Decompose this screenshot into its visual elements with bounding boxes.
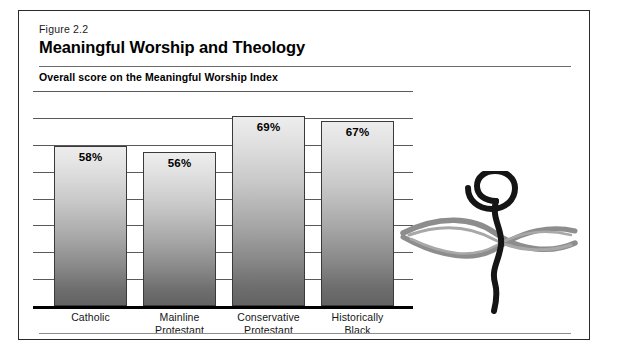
chart-bar: 56% bbox=[143, 152, 216, 306]
spiral-brush-ornament-icon bbox=[399, 171, 579, 316]
chart-bar: 67% bbox=[321, 121, 394, 306]
chart-bar: 69% bbox=[232, 116, 305, 306]
chart-bar-group: 69% bbox=[232, 116, 305, 306]
chart-subtitle: Overall score on the Meaningful Worship … bbox=[39, 71, 278, 83]
chart-plot-area: 58%56%69%67% bbox=[33, 91, 413, 306]
chart-bar-value-label: 56% bbox=[144, 157, 215, 169]
chart-bar: 58% bbox=[54, 146, 127, 306]
page-title: Meaningful Worship and Theology bbox=[39, 37, 459, 57]
chart-bar-value-label: 67% bbox=[322, 126, 393, 138]
figure-header: Figure 2.2 Meaningful Worship and Theolo… bbox=[39, 23, 459, 57]
chart-axis-baseline bbox=[33, 306, 413, 309]
chart-category-axis: CatholicMainlineProtestantConservativePr… bbox=[33, 311, 413, 345]
chart-bar-group: 58% bbox=[54, 146, 127, 306]
figure-number: Figure 2.2 bbox=[39, 23, 459, 36]
chart-bar-group: 56% bbox=[143, 152, 216, 306]
footer-divider bbox=[39, 333, 571, 334]
chart-bars: 58%56%69%67% bbox=[33, 91, 413, 306]
chart-bar-group: 67% bbox=[321, 121, 394, 306]
chart-bar-value-label: 58% bbox=[55, 151, 126, 163]
chart-bar-value-label: 69% bbox=[233, 121, 304, 133]
chart-category-label: Catholic bbox=[46, 311, 135, 324]
figure-frame: Figure 2.2 Meaningful Worship and Theolo… bbox=[18, 10, 590, 340]
header-divider bbox=[39, 66, 571, 67]
